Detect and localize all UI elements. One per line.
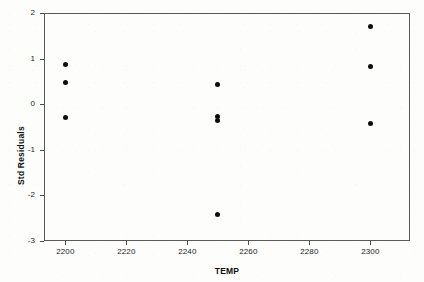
y-tick	[40, 59, 44, 60]
x-tick	[187, 241, 188, 245]
data-point	[368, 121, 373, 126]
data-point	[63, 62, 68, 67]
data-point	[63, 115, 68, 120]
y-axis-title-wrapper: Std Residuals	[2, 0, 20, 282]
y-tick	[40, 104, 44, 105]
plot-area-frame	[44, 13, 410, 241]
x-tick	[126, 241, 127, 245]
scatter-plot-figure: 220022202240226022802300 210-1-2-3 TEMP …	[0, 0, 424, 282]
y-tick	[40, 241, 44, 242]
y-tick	[40, 195, 44, 196]
data-point	[215, 212, 220, 217]
data-point	[368, 24, 373, 29]
x-tick-label: 2300	[350, 247, 390, 256]
y-axis-title: Std Residuals	[16, 126, 26, 185]
data-point	[63, 80, 68, 85]
x-tick	[370, 241, 371, 245]
x-tick-label: 2200	[45, 247, 85, 256]
x-tick-label: 2240	[167, 247, 207, 256]
x-tick	[65, 241, 66, 245]
x-tick-label: 2280	[289, 247, 329, 256]
y-tick	[40, 150, 44, 151]
x-axis-title: TEMP	[187, 266, 267, 276]
x-tick	[309, 241, 310, 245]
x-tick-label: 2220	[106, 247, 146, 256]
x-tick-label: 2260	[228, 247, 268, 256]
x-tick	[248, 241, 249, 245]
y-tick	[40, 13, 44, 14]
